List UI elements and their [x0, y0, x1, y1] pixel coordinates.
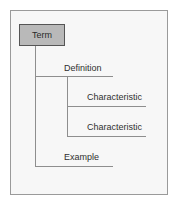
connector-definition [35, 76, 113, 77]
diagram-screenshot: Term Definition Characteristic Character… [0, 0, 179, 208]
connector-characteristic-2 [67, 136, 146, 137]
node-term[interactable]: Term [19, 24, 65, 46]
diagram-frame: Term Definition Characteristic Character… [10, 10, 168, 195]
node-characteristic-2[interactable]: Characteristic [87, 123, 142, 132]
diagram-canvas: Term Definition Characteristic Character… [11, 11, 169, 196]
connector-example [35, 166, 113, 167]
node-term-label: Term [32, 31, 52, 40]
node-characteristic-1[interactable]: Characteristic [87, 93, 142, 102]
connector-trunk-term [35, 46, 36, 166]
connector-characteristic-1 [67, 106, 146, 107]
node-example[interactable]: Example [64, 153, 99, 162]
node-definition[interactable]: Definition [64, 64, 102, 73]
